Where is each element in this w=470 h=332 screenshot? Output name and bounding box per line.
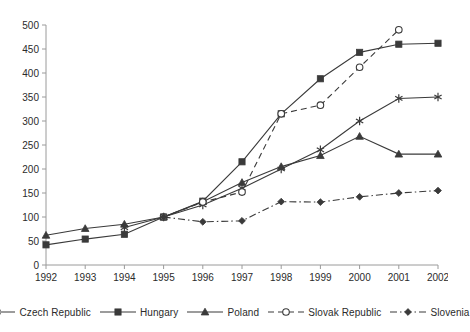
data-point-marker	[356, 133, 364, 140]
x-axis-tick-label: 1998	[270, 272, 293, 283]
series-slovak-republic	[160, 27, 402, 221]
x-axis-tick-label: 1996	[192, 272, 215, 283]
legend-label: Slovak Republic	[308, 307, 381, 318]
legend-label: Poland	[227, 307, 259, 318]
legend-swatch-diamond-icon	[389, 306, 427, 318]
legend-item-slovak-republic[interactable]: Slovak Republic	[267, 306, 381, 318]
legend-label: Slovenia	[430, 307, 469, 318]
data-point-marker	[115, 309, 121, 315]
data-point-marker	[356, 64, 363, 71]
y-axis-tick-label: 500	[22, 20, 39, 31]
data-point-marker	[239, 217, 246, 224]
y-axis-tick-label: 350	[22, 92, 39, 103]
data-point-marker	[239, 189, 246, 196]
x-axis-tick-label: 1995	[152, 272, 175, 283]
data-point-marker	[317, 152, 325, 159]
x-axis-tick-label: 2002	[427, 272, 448, 283]
legend-item-czech-republic[interactable]: Czech Republic	[0, 306, 91, 318]
data-point-marker	[435, 187, 442, 194]
series-line	[164, 30, 399, 217]
x-axis-tick-label: 1992	[35, 272, 58, 283]
data-point-marker	[356, 117, 363, 125]
x-axis-tick-label: 1997	[231, 272, 254, 283]
y-axis-tick-label: 450	[22, 44, 39, 55]
legend-item-hungary[interactable]: Hungary	[99, 306, 179, 318]
data-point-marker	[199, 218, 206, 225]
series-hungary	[43, 40, 441, 248]
data-point-marker	[238, 179, 246, 186]
data-point-marker	[82, 236, 88, 242]
legend-item-poland[interactable]: Poland	[186, 306, 259, 318]
x-axis-tick-label: 1999	[309, 272, 332, 283]
data-point-marker	[405, 309, 412, 316]
y-axis-tick-label: 100	[22, 212, 39, 223]
data-point-marker	[396, 41, 402, 47]
legend-swatch-triangle-icon	[186, 306, 224, 318]
data-point-marker	[278, 111, 285, 118]
data-point-marker	[43, 242, 49, 248]
y-axis-tick-label: 150	[22, 188, 39, 199]
legend-label: Hungary	[140, 307, 179, 318]
data-point-marker	[278, 198, 285, 205]
legend-item-slovenia[interactable]: Slovenia	[389, 306, 469, 318]
data-point-marker	[357, 49, 363, 55]
legend-swatch-square-icon	[99, 306, 137, 318]
y-axis-tick-label: 250	[22, 140, 39, 151]
legend-swatch-circle-open-icon	[267, 306, 305, 318]
legend-label: Czech Republic	[19, 307, 90, 318]
x-axis-tick-label: 1993	[74, 272, 97, 283]
x-axis-tick-label: 1994	[113, 272, 136, 283]
data-point-marker	[435, 40, 441, 46]
data-point-marker	[317, 199, 324, 206]
data-point-marker	[121, 231, 127, 237]
y-axis-tick-label: 50	[28, 236, 40, 247]
data-point-marker	[200, 199, 207, 206]
data-point-marker	[317, 102, 324, 109]
y-axis-tick-label: 400	[22, 68, 39, 79]
y-axis-tick-label: 300	[22, 116, 39, 127]
y-axis-tick-label: 0	[33, 260, 39, 271]
data-point-marker	[396, 27, 403, 34]
data-point-marker	[395, 190, 402, 197]
data-point-marker	[283, 309, 290, 316]
data-point-marker	[317, 76, 323, 82]
y-axis-tick-label: 200	[22, 164, 39, 175]
x-axis-tick-label: 2001	[388, 272, 411, 283]
data-point-marker	[239, 159, 245, 165]
legend-swatch-star-icon	[0, 306, 16, 318]
data-point-marker	[356, 193, 363, 200]
x-axis-tick-label: 2000	[348, 272, 371, 283]
chart-legend: Czech RepublicHungaryPolandSlovak Republ…	[0, 306, 448, 318]
series-line	[46, 43, 438, 245]
